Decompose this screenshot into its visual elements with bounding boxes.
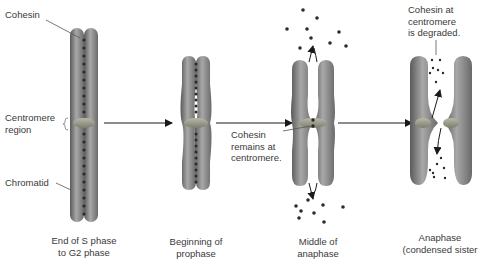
caption-stage-2: Beginning of prophase [146, 236, 246, 260]
chromosome-stage-4 [410, 40, 472, 185]
caption-stage-3: Middle of anaphase [268, 236, 368, 260]
label-cohesin-degraded: Cohesin at centromere is degraded. [408, 4, 460, 39]
label-chromatid: Chromatid [5, 177, 49, 189]
chromosome-stage-2 [181, 56, 212, 190]
label-cohesin-remains: Cohesin remains at centromere. [231, 129, 282, 164]
caption-stage-1: End of S phase to G2 phase [34, 235, 134, 259]
caption-stage-4: Anaphase (condensed sister [390, 232, 478, 256]
chromosome-stage-3 [283, 8, 348, 224]
label-cohesin: Cohesin [5, 9, 40, 21]
label-centromere-region: Centromere region [5, 112, 55, 135]
